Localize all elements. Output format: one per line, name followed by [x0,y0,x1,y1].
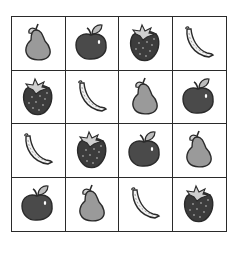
pear-icon [70,182,114,226]
grid-cell-banana [119,178,173,232]
grid-cell-apple [173,71,227,125]
banana-icon [16,128,60,172]
grid-cell-pear [173,124,227,178]
banana-icon [70,75,114,119]
strawberry-icon [70,128,114,172]
apple-icon [123,128,167,172]
grid-cell-strawberry [173,178,227,232]
banana-icon [123,182,167,226]
grid-cell-strawberry [66,124,120,178]
grid-cell-pear [66,178,120,232]
pear-icon [177,128,221,172]
grid-cell-banana [12,124,66,178]
apple-icon [177,75,221,119]
pear-icon [123,75,167,119]
grid-cell-banana [173,17,227,71]
strawberry-icon [123,21,167,65]
grid-cell-strawberry [119,17,173,71]
grid-cell-apple [66,17,120,71]
pear-icon [16,21,60,65]
grid-cell-pear [12,17,66,71]
grid-cell-banana [66,71,120,125]
grid-cell-pear [119,71,173,125]
grid-cell-strawberry [12,71,66,125]
grid-cell-apple [12,178,66,232]
strawberry-icon [177,182,221,226]
banana-icon [177,21,221,65]
grid-cell-apple [119,124,173,178]
strawberry-icon [16,75,60,119]
apple-icon [16,182,60,226]
apple-icon [70,21,114,65]
fruit-grid [11,16,227,232]
